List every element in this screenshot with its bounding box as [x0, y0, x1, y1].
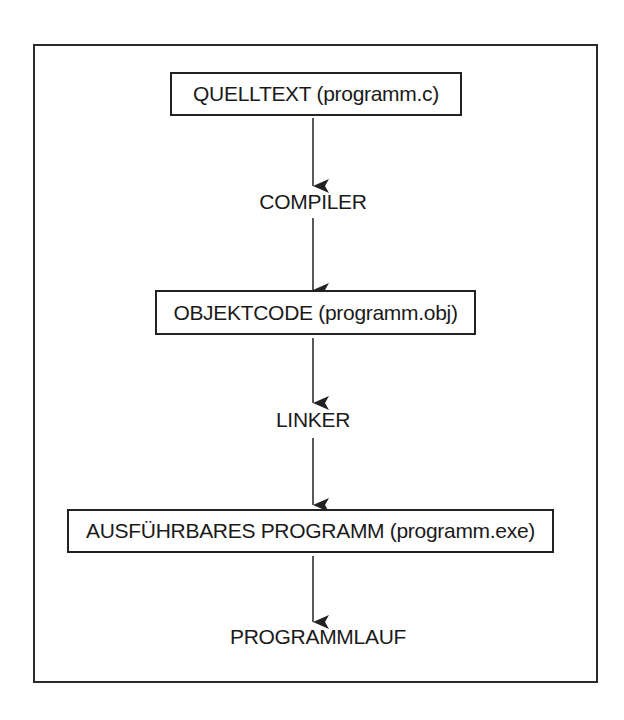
node-programmlauf: PROGRAMMLAUF [230, 625, 406, 649]
node-ausfuehrbares-programm: AUSFÜHRBARES PROGRAMM (programm.exe) [67, 509, 554, 553]
node-quelltext: QUELLTEXT (programm.c) [170, 72, 462, 116]
node-quelltext-label: QUELLTEXT (programm.c) [193, 82, 439, 106]
node-objektcode-label: OBJEKTCODE (programm.obj) [173, 301, 457, 325]
node-objektcode: OBJEKTCODE (programm.obj) [155, 290, 476, 335]
node-linker: LINKER [276, 408, 350, 432]
node-compiler: COMPILER [259, 190, 366, 214]
node-ausfuehrbares-programm-label: AUSFÜHRBARES PROGRAMM (programm.exe) [86, 519, 535, 543]
